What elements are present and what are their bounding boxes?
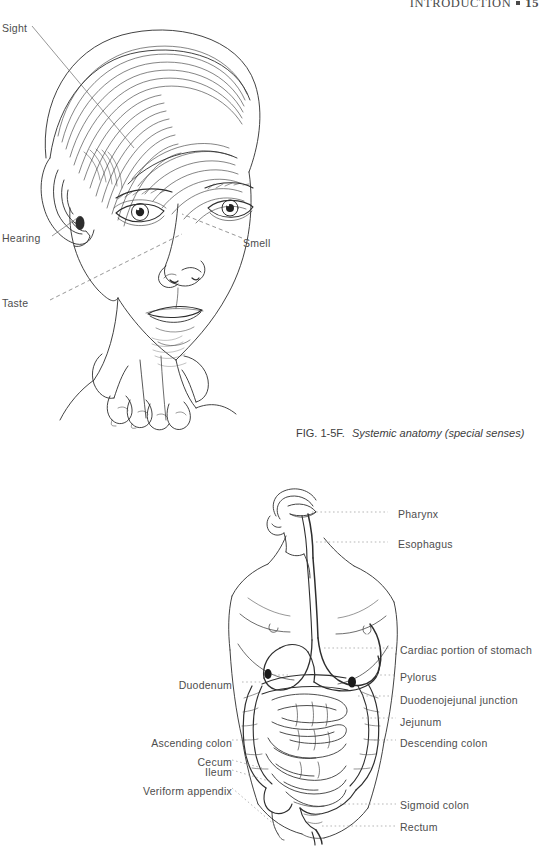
- label-jejunum: Jejunum: [400, 716, 441, 728]
- label-duodenojejunal: Duodenojejunal junction: [400, 694, 518, 706]
- figure-number: FIG. 1-5F.: [296, 427, 345, 439]
- label-pylorus: Pylorus: [400, 671, 437, 683]
- figure-caption: FIG. 1-5F.Systemic anatomy (special sens…: [296, 427, 524, 439]
- running-header: INTRODUCTION15: [410, 0, 539, 11]
- label-sigmoid-colon: Sigmoid colon: [400, 799, 469, 811]
- label-cardiac-portion: Cardiac portion of stomach: [400, 644, 532, 656]
- leader-line-sight: [32, 26, 134, 148]
- header-section-title: INTRODUCTION: [410, 0, 512, 10]
- label-hearing: Hearing: [2, 232, 41, 244]
- label-duodenum: Duodenum: [179, 679, 232, 691]
- head-illustration: [6, 8, 306, 428]
- label-taste: Taste: [2, 297, 28, 309]
- label-ileum: Ileum: [205, 766, 232, 778]
- leader-line-taste: [50, 234, 182, 300]
- label-veriform-appendix: Veriform appendix: [143, 785, 232, 797]
- leader-line-appendix: [232, 788, 276, 826]
- label-rectum: Rectum: [400, 821, 438, 833]
- figure-special-senses: [6, 8, 306, 428]
- label-descending-colon: Descending colon: [400, 737, 487, 749]
- figure-caption-text: Systemic anatomy (special senses): [352, 427, 524, 439]
- label-esophagus: Esophagus: [398, 538, 453, 550]
- figure-digestive-system: [228, 486, 418, 846]
- label-sight: Sight: [2, 22, 27, 34]
- page-number: 15: [525, 0, 539, 10]
- label-ascending-colon: Ascending colon: [151, 737, 232, 749]
- label-smell: Smell: [243, 237, 271, 249]
- label-pharynx: Pharynx: [398, 508, 438, 520]
- square-bullet-icon: [516, 1, 520, 5]
- torso-illustration: [228, 486, 418, 846]
- textbook-page: INTRODUCTION15: [0, 0, 553, 849]
